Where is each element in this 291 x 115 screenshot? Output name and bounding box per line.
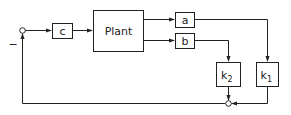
block-b-label: b — [182, 35, 189, 48]
edge-k1-to-sum — [232, 87, 268, 104]
block-plant-label: Plant — [105, 25, 133, 38]
block-diagram: − c Plant a b k2 k1 — [0, 0, 291, 115]
feedback-summing-junction — [226, 101, 232, 107]
edge-b-to-k2 — [195, 41, 229, 62]
minus-sign: − — [8, 38, 17, 51]
block-a-label: a — [182, 14, 189, 27]
block-c-label: c — [59, 25, 65, 38]
input-summing-junction — [20, 28, 26, 34]
